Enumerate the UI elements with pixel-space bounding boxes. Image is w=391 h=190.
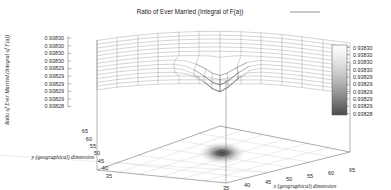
z-tick-label: 0.93828	[45, 103, 65, 109]
surface-depression-funnel	[194, 63, 249, 93]
colorbar-tick-label: 0.93829	[353, 96, 373, 102]
colorbar-tick-label: 0.93830	[353, 45, 373, 51]
y-tick-label: 45	[98, 158, 104, 164]
y-tick-label: 50	[94, 150, 100, 156]
z-tick-label: 0.93830	[45, 58, 65, 64]
base-contour-projection	[197, 141, 247, 165]
x-tick-label: 45	[265, 179, 271, 185]
z-tick-label: 0.93830	[45, 43, 65, 49]
y-axis-title: y (geographical) dimension	[31, 154, 95, 161]
chart-canvas: Ratio of Ever Married (Integral of F(a))…	[0, 0, 391, 190]
z-axis-title-group: Ratio of Ever Married (Integral of F(a))	[4, 35, 11, 126]
y-tick-label: 40	[102, 165, 108, 171]
x-tick-label: 35	[223, 185, 229, 190]
gnuplot-surface-chart: Ratio of Ever Married (Integral of F(a))…	[0, 0, 391, 190]
colorbar-gradient	[332, 45, 347, 115]
y-tick-label: 65	[82, 128, 88, 134]
y-tick-label: 55	[90, 143, 96, 149]
z-tick-label: 0.93829	[45, 96, 65, 102]
y-axis-group: 65 60 55 50 45 40 35 y (geographical) di…	[31, 128, 112, 179]
colorbar-tick-label: 0.93828	[353, 111, 373, 117]
x-tick-label: 40	[244, 182, 250, 188]
x-tick-label: 60	[328, 170, 334, 176]
y-tick-label: 35	[106, 173, 112, 179]
z-axis-title: Ratio of Ever Married (Integral of F(a))	[4, 35, 11, 126]
x-tick-label: 50	[286, 176, 292, 182]
colorbar-tick-label: 0.93829	[353, 89, 373, 95]
z-axis-ticks: 0.93830 0.93830 0.93830 0.93830 0.93829 …	[45, 35, 72, 109]
colorbar-tick-label: 0.93829	[353, 103, 373, 109]
z-tick-label: 0.93830	[45, 35, 65, 41]
chart-title-group: Ratio of Ever Married (Integral of F(a))	[137, 8, 320, 16]
z-tick-label: 0.93829	[45, 88, 65, 94]
z-tick-label: 0.93829	[45, 81, 65, 87]
surface-mesh	[97, 31, 350, 93]
z-tick-label: 0.93829	[45, 73, 65, 79]
chart-title: Ratio of Ever Married (Integral of F(a))	[137, 8, 244, 16]
x-tick-label: 65	[349, 167, 355, 173]
colorbar-tick-label: 0.93830	[353, 59, 373, 65]
y-tick-label: 60	[86, 136, 92, 142]
colorbar-group: 0.93830 0.93830 0.93830 0.93830 0.93829 …	[332, 45, 373, 117]
colorbar-tick-label: 0.93830	[353, 52, 373, 58]
contour-blob	[197, 141, 247, 165]
x-axis-title: x (geographical) dimension	[273, 183, 337, 190]
z-tick-label: 0.93829	[45, 65, 65, 71]
x-tick-label: 55	[307, 173, 313, 179]
colorbar-tick-label: 0.93829	[353, 81, 373, 87]
colorbar-tick-label: 0.93830	[353, 67, 373, 73]
colorbar-tick-label: 0.93829	[353, 74, 373, 80]
z-tick-label: 0.93830	[45, 50, 65, 56]
